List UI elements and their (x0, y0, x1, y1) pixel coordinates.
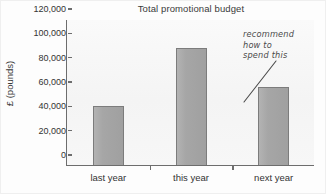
recommendation-note: recommendhow tospend this (243, 29, 323, 61)
y-axis-title: £ (pounds) (4, 44, 15, 124)
annotation-line: recommend (243, 29, 323, 40)
y-axis-tick: 40,000 (38, 101, 67, 111)
x-axis-tick-mark (150, 165, 151, 170)
annotation-line: spend this (243, 50, 323, 61)
y-axis-tick-label: 120,000 (33, 4, 67, 14)
y-axis-tick: 80,000 (38, 53, 67, 63)
x-axis-label-next-year: next year (254, 172, 293, 183)
bar-last-year (93, 106, 124, 165)
y-axis-tick-mark (68, 81, 72, 82)
bar-chart-screenshot: Total promotional budget £ (pounds) 020,… (0, 0, 326, 194)
y-axis-tick-label: 100,000 (33, 28, 67, 38)
y-axis-tick-label: 80,000 (38, 53, 67, 63)
y-axis-tick-mark (68, 33, 72, 34)
y-axis-tick: 100,000 (33, 28, 67, 38)
x-axis-tick-mark (232, 165, 233, 170)
y-axis-tick-label: 20,000 (38, 126, 67, 136)
y-axis-tick: 120,000 (33, 4, 67, 14)
bar-this-year (176, 48, 207, 165)
y-axis-tick: 60,000 (38, 77, 67, 87)
chart-title: Total promotional budget (66, 3, 316, 14)
y-axis-tick-label: 0 (61, 150, 67, 160)
y-axis-tick-label: 40,000 (38, 101, 67, 111)
y-axis-tick-mark (68, 106, 72, 107)
y-axis-tick: 20,000 (38, 126, 67, 136)
annotation-line: how to (243, 40, 323, 51)
y-axis-tick-mark (68, 57, 72, 58)
y-axis-tick-label: 60,000 (38, 77, 67, 87)
y-axis-tick-mark (68, 8, 72, 9)
x-axis-label-this-year: this year (173, 172, 209, 183)
y-axis-tick: 0 (61, 150, 67, 160)
y-axis-tick-mark (68, 130, 72, 131)
bar-next-year (258, 87, 289, 165)
x-axis-label-last-year: last year (90, 172, 126, 183)
y-axis-tick-mark (68, 154, 72, 155)
